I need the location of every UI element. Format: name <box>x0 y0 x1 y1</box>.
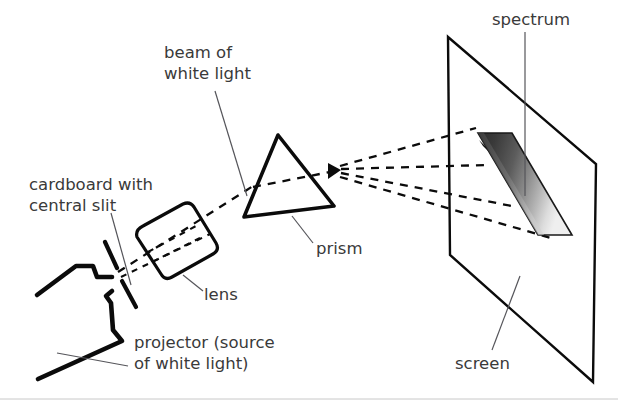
lens-body <box>137 203 218 278</box>
label-spectrum: spectrum <box>492 10 570 29</box>
label-beam-line2: white light <box>164 64 252 83</box>
label-lens: lens <box>204 285 238 304</box>
screen-group <box>448 37 596 382</box>
projector-lower-shell <box>38 291 122 379</box>
label-cardboard-line1: cardboard with <box>29 175 153 194</box>
lens-group <box>137 203 218 278</box>
label-cardboard-line2: central slit <box>29 196 117 215</box>
ray-inside-lens-a <box>148 226 196 252</box>
label-projector-line1: projector (source <box>134 333 275 352</box>
label-prism: prism <box>316 239 363 258</box>
cardboard-upper-plate <box>105 242 117 268</box>
diagram-canvas: beam of white light cardboard with centr… <box>0 0 618 403</box>
projector-top-shell <box>37 266 112 295</box>
prism-group <box>244 135 341 217</box>
leader-cardboard <box>111 213 131 285</box>
label-screen: screen <box>455 354 510 373</box>
ray-inside-lens-b <box>152 238 200 262</box>
label-projector-line2: of white light) <box>134 354 249 373</box>
leader-beam <box>215 91 247 196</box>
prism-exit-point <box>328 163 341 179</box>
cardboard-lower-plate <box>122 281 136 307</box>
screen-panel <box>448 37 596 382</box>
leader-prism <box>292 216 313 243</box>
leader-lens <box>183 275 203 291</box>
label-beam-line1: beam of <box>164 43 233 62</box>
prism-triangle <box>244 135 334 217</box>
prism-dispersion-diagram: beam of white light cardboard with centr… <box>0 0 618 403</box>
